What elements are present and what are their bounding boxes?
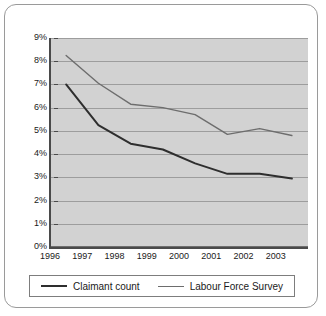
x-axis-tick-label: 2003 [259,251,293,261]
y-axis-tick-label: 2% [19,196,47,205]
y-axis-tick-label: 0% [19,242,47,251]
line-chart: 0%1%2%3%4%5%6%7%8%9% 1996199719981999200… [5,5,319,309]
y-axis-tick-label: 7% [19,79,47,88]
series-line-labour-force-survey [66,55,292,135]
y-axis-tick-label: 6% [19,103,47,112]
chart-card: 0%1%2%3%4%5%6%7%8%9% 1996199719981999200… [4,4,318,308]
x-axis-tick-label: 1997 [65,251,99,261]
legend-line-lfs-icon [158,286,184,287]
legend-label-labour-force-survey: Labour Force Survey [190,281,283,292]
x-axis-line [49,247,308,249]
x-axis-tick-label: 2001 [194,251,228,261]
legend-item-claimant-count: Claimant count [41,281,140,292]
series-line-claimant-count [66,84,292,178]
x-axis-labels: 19961997199819992000200120022003 [50,251,308,265]
x-axis-tick-label: 2000 [162,251,196,261]
legend-item-labour-force-survey: Labour Force Survey [158,281,283,292]
y-axis-tick-label: 9% [19,33,47,42]
x-axis-tick-label: 2002 [227,251,261,261]
y-axis-tick-label: 1% [19,219,47,228]
y-axis-labels: 0%1%2%3%4%5%6%7%8%9% [13,38,47,248]
x-axis-tick-label: 1996 [33,251,67,261]
legend-label-claimant-count: Claimant count [73,281,140,292]
y-axis-tick-label: 5% [19,126,47,135]
y-axis-tick-label: 4% [19,149,47,158]
y-axis-tick-label: 3% [19,172,47,181]
x-axis-tick-label: 1999 [130,251,164,261]
series-lines [50,38,308,247]
legend-line-claimant-icon [41,285,67,287]
y-axis-tick-label: 8% [19,56,47,65]
chart-legend: Claimant count Labour Force Survey [29,275,295,297]
x-axis-tick-label: 1998 [98,251,132,261]
